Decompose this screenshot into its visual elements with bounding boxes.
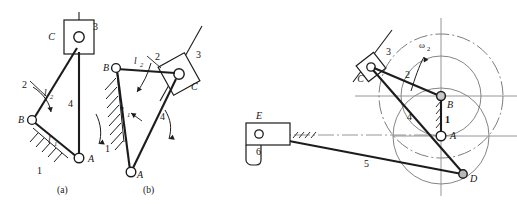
figure-canvas: C B A 3 2 4 1 l 2 l 1 (a) [0,0,517,204]
link-label-1-b: 1 [105,143,110,154]
slider-block-6-E [246,123,290,145]
link-label-4-c: 4 [407,111,412,122]
link-1-b [117,70,130,170]
pin-joint-A-b [126,167,136,177]
link-label-4-b: 4 [160,111,165,122]
joint-label-C-c: C [357,73,364,84]
joint-label-A-b: A [136,169,144,180]
link-label-6-c: 6 [256,146,261,157]
panel-a: C B A 3 2 4 1 l 2 l 1 (a) [18,12,105,196]
link-label-2-b: 2 [155,51,160,62]
joint-label-E: E [255,110,262,121]
link-label-1-a: 1 [37,165,42,176]
link-label-1-c: 1 [445,114,450,125]
joint-label-B-b: B [103,62,109,73]
pin-joint-B-b [112,64,121,73]
link-2-a [33,48,77,120]
pin-joint-A-a [74,153,84,163]
pin-joint-A-c [436,131,446,141]
svg-text:l: l [121,106,124,116]
link-label-5-c: 5 [364,158,369,169]
pin-joint-C-a [74,32,84,42]
link-label-3-b: 3 [196,49,201,60]
panel-caption-b: (b) [143,185,154,196]
link-4-b [132,79,176,170]
dimension-label-l2-b: l 2 [134,56,144,68]
annotation-omega2: ω 2 [419,40,430,52]
pin-joint-B-a [28,116,37,125]
svg-text:2: 2 [140,61,144,68]
mechanism-diagram-svg: C B A 3 2 4 1 l 2 l 1 (a) [0,0,517,204]
svg-text:l: l [134,56,137,66]
pin-joint-D [459,170,467,178]
panel-b: B C A 2 3 4 1 l 2 l 1 (b) [103,26,202,196]
joint-label-C-a: C [48,31,55,42]
joint-label-B-a: B [18,114,24,125]
panel-caption-a: (a) [57,185,68,196]
svg-text:ω: ω [419,40,425,50]
joint-label-D: D [469,173,478,184]
pin-joint-C-b [174,69,184,79]
joint-label-B-c: B [447,99,453,110]
link-label-2-a: 2 [22,79,27,90]
link-label-3-a: 3 [93,21,98,32]
joint-label-A-c: A [449,130,457,141]
pin-joint-E [255,130,263,138]
panel-c: C B A D E 3 2 1 4 5 6 ω 2 [246,18,517,196]
svg-text:1: 1 [54,140,57,147]
svg-text:2: 2 [50,93,54,100]
pin-joint-B-c [437,92,446,101]
svg-text:l: l [44,88,47,98]
svg-text:1: 1 [127,111,130,118]
link-label-4-a: 4 [68,98,73,109]
joint-label-C-b: C [191,81,198,92]
svg-text:2: 2 [427,45,430,52]
link-label-3-c: 3 [386,46,391,57]
svg-text:l: l [48,135,51,145]
link-label-2-c: 2 [405,69,410,80]
joint-label-A-a: A [87,153,95,164]
